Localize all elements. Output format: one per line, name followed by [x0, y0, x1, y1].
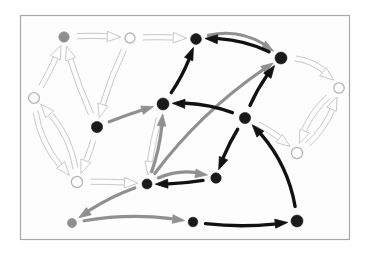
graph-node-hollow[interactable] [71, 176, 82, 187]
graph-canvas [0, 0, 369, 254]
graph-node-black[interactable] [142, 179, 152, 189]
graph-node-black[interactable] [211, 173, 221, 183]
graph-node-black[interactable] [291, 215, 303, 227]
graph-node-black[interactable] [157, 98, 169, 110]
frame-border [21, 16, 350, 240]
graph-node-gray[interactable] [59, 32, 69, 42]
graph-node-hollow[interactable] [291, 147, 302, 158]
figure-root [0, 0, 369, 254]
frame-border-group [21, 16, 350, 240]
graph-node-black[interactable] [275, 52, 287, 64]
graph-node-hollow[interactable] [125, 33, 135, 43]
graph-node-black[interactable] [191, 34, 202, 45]
graph-node-black[interactable] [239, 112, 250, 123]
graph-node-hollow[interactable] [29, 93, 40, 104]
graph-node-black[interactable] [91, 121, 102, 132]
graph-node-black[interactable] [188, 217, 198, 227]
graph-node-hollow[interactable] [334, 83, 344, 93]
graph-node-gray[interactable] [67, 218, 76, 227]
